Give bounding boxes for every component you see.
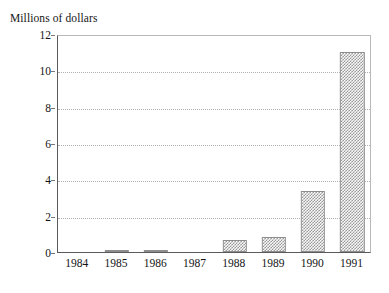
bar-chart: Millions of dollars 024681012 1984198519… <box>0 0 389 293</box>
bar-1986 <box>144 250 168 252</box>
bar-1985 <box>105 250 129 252</box>
y-axis-tick-label: 10 <box>5 65 51 77</box>
bar-slot <box>215 36 254 252</box>
bar-slot <box>254 36 293 252</box>
bar-1990 <box>301 191 325 252</box>
x-axis-tick-label: 1989 <box>253 256 292 270</box>
x-axis-tick-label: 1991 <box>332 256 371 270</box>
x-axis-tick-label: 1990 <box>293 256 332 270</box>
bar-slot <box>294 36 333 252</box>
bar-1988 <box>222 240 246 252</box>
x-axis-tick-label: 1986 <box>136 256 175 270</box>
y-axis-tick-mark <box>51 253 55 254</box>
y-axis-tick-label: 8 <box>5 102 51 114</box>
bar-slot <box>333 36 372 252</box>
y-axis-tick-mark <box>51 180 55 181</box>
y-axis-tick-label: 6 <box>5 138 51 150</box>
y-axis-tick-label: 2 <box>5 211 51 223</box>
bar-slot <box>58 36 97 252</box>
y-axis-tick-mark <box>51 217 55 218</box>
y-axis-tick-mark <box>51 71 55 72</box>
x-axis-tick-label: 1987 <box>175 256 214 270</box>
plot-area <box>57 35 371 253</box>
x-axis: 19841985198619871988198919901991 <box>57 256 371 278</box>
x-axis-tick-label: 1985 <box>96 256 135 270</box>
y-axis-tick-label: 0 <box>5 247 51 259</box>
y-axis: 024681012 <box>0 35 51 253</box>
bar-1989 <box>262 237 286 252</box>
chart-title: Millions of dollars <box>10 12 98 25</box>
x-axis-tick-label: 1988 <box>214 256 253 270</box>
bar-slot <box>97 36 136 252</box>
y-axis-tick-label: 12 <box>5 29 51 41</box>
y-axis-tick-mark <box>51 108 55 109</box>
bar-1991 <box>340 52 364 252</box>
y-axis-tick-mark <box>51 144 55 145</box>
bar-slot <box>176 36 215 252</box>
y-axis-tick-label: 4 <box>5 174 51 186</box>
bar-slot <box>137 36 176 252</box>
y-axis-tick-mark <box>51 35 55 36</box>
x-axis-tick-label: 1984 <box>57 256 96 270</box>
